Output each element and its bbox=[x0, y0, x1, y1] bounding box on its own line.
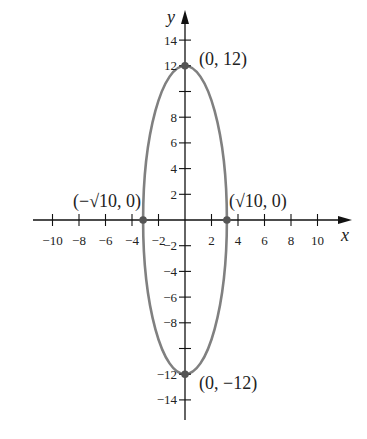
y-tick-label: 6 bbox=[171, 135, 178, 150]
x-tick-label: 10 bbox=[311, 233, 324, 248]
y-tick-label: 8 bbox=[171, 110, 178, 125]
x-tick-label: −10 bbox=[42, 233, 62, 248]
point-label: (−√10, 0) bbox=[73, 191, 141, 212]
x-tick-label: −8 bbox=[72, 233, 86, 248]
y-axis-label: y bbox=[165, 7, 175, 27]
y-tick-label: −4 bbox=[163, 264, 177, 279]
x-tick-label: 2 bbox=[208, 233, 215, 248]
y-tick-label: 2 bbox=[171, 187, 178, 202]
point-label: (0, 12) bbox=[199, 49, 247, 70]
x-tick-label: 8 bbox=[288, 233, 295, 248]
y-tick-label: −8 bbox=[163, 315, 177, 330]
point-marker bbox=[223, 216, 231, 224]
y-tick-label: 4 bbox=[171, 161, 178, 176]
x-tick-label: −4 bbox=[125, 233, 139, 248]
point-marker bbox=[181, 370, 189, 378]
point-marker bbox=[139, 216, 147, 224]
x-tick-label: 4 bbox=[235, 233, 242, 248]
y-tick-label: −2 bbox=[163, 238, 177, 253]
x-tick-label: −6 bbox=[99, 233, 113, 248]
point-label: (√10, 0) bbox=[229, 191, 287, 212]
y-tick-label: −6 bbox=[163, 290, 177, 305]
y-tick-label: −14 bbox=[157, 392, 178, 407]
x-tick-label: 6 bbox=[261, 233, 268, 248]
point-label: (0, −12) bbox=[199, 373, 257, 394]
y-tick-label: 12 bbox=[164, 58, 177, 73]
y-axis-arrow-icon bbox=[181, 10, 189, 24]
chart-plot: xy −10−8−6−4−224681014128642−2−4−6−8−12−… bbox=[0, 0, 367, 439]
x-axis-arrow-icon bbox=[338, 216, 352, 224]
point-marker bbox=[181, 62, 189, 70]
x-axis-label: x bbox=[340, 225, 349, 245]
y-tick-label: 14 bbox=[164, 33, 178, 48]
y-tick-label: −12 bbox=[157, 367, 177, 382]
